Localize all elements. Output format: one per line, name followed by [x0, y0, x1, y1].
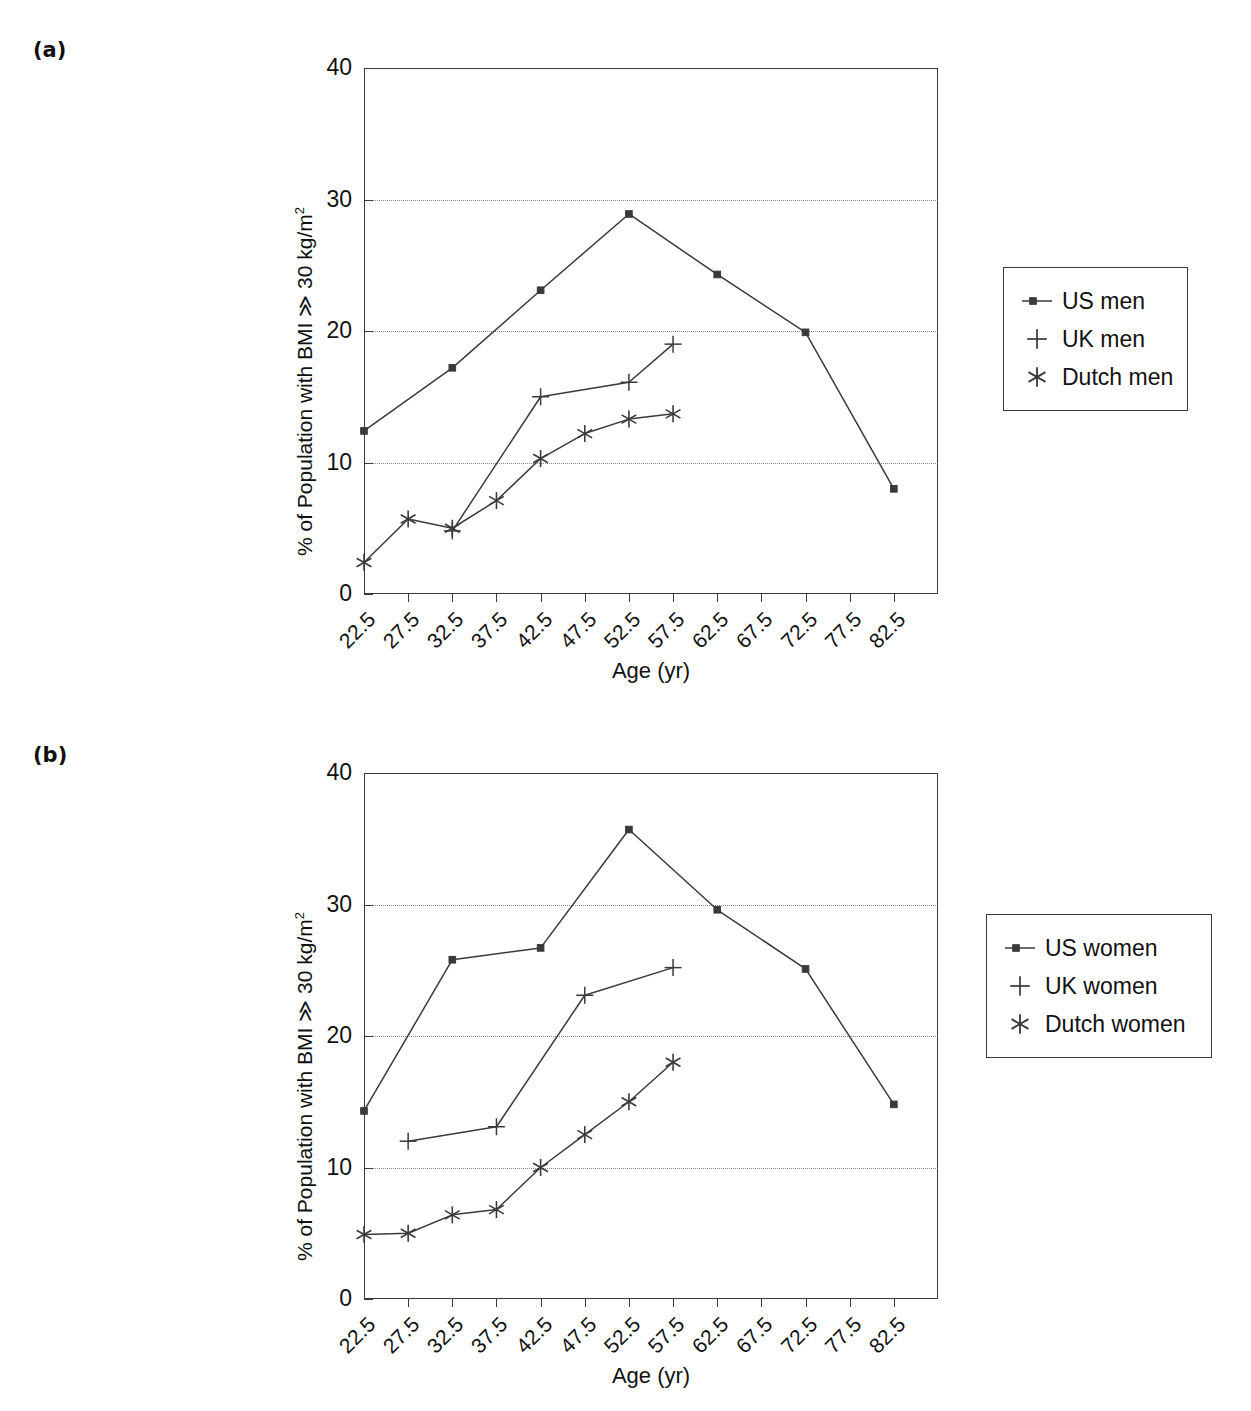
data-point-asterisk — [622, 1093, 637, 1110]
x-tick-label-32.5: 32.5 — [413, 608, 467, 662]
square-marker-glyph — [1018, 289, 1062, 313]
plus-marker-icon — [1001, 974, 1045, 998]
x-tick-label-52.5: 52.5 — [589, 1313, 643, 1367]
legend-item: Dutch men — [1018, 358, 1169, 396]
x-tick-label-52.5: 52.5 — [589, 608, 643, 662]
legend-item: UK men — [1018, 320, 1169, 358]
x-tick-mark-67.5 — [761, 594, 762, 602]
x-tick-mark-62.5 — [717, 594, 718, 602]
y-tick-label-0: 0 — [308, 1287, 352, 1310]
data-point-square — [449, 365, 456, 372]
y-tick-mark-0 — [364, 1299, 373, 1300]
y-tick-mark-20 — [364, 331, 373, 332]
y-tick-mark-0 — [364, 594, 373, 595]
data-point-square — [449, 956, 456, 963]
x-tick-label-47.5: 47.5 — [545, 1313, 599, 1367]
x-tick-label-82.5: 82.5 — [854, 608, 908, 662]
data-point-square — [714, 906, 721, 913]
x-tick-label-57.5: 57.5 — [633, 1313, 687, 1367]
data-point-plus — [400, 1133, 417, 1150]
x-tick-mark-27.5 — [408, 594, 409, 602]
y-tick-mark-30 — [364, 905, 373, 906]
plus-marker-icon — [1018, 327, 1062, 351]
x-tick-mark-37.5 — [496, 594, 497, 602]
data-point-square — [714, 271, 721, 278]
x-tick-label-22.5: 22.5 — [324, 608, 378, 662]
x-tick-label-57.5: 57.5 — [633, 608, 687, 662]
series-line-us-men — [364, 214, 894, 489]
x-tick-label-42.5: 42.5 — [501, 1313, 555, 1367]
y-tick-mark-10 — [364, 463, 373, 464]
x-tick-label-42.5: 42.5 — [501, 608, 555, 662]
square-marker-icon — [1001, 936, 1045, 960]
x-tick-mark-37.5 — [496, 1299, 497, 1307]
legend-a: US men UK men Dutch men — [1003, 267, 1188, 411]
y-axis-title: % of Population with BMI ≫ 30 kg/m2 — [292, 207, 317, 556]
y-tick-mark-40 — [364, 773, 373, 774]
x-tick-label-27.5: 27.5 — [369, 608, 423, 662]
y-tick-label-40: 40 — [308, 56, 352, 79]
data-point-square — [891, 486, 898, 493]
y-tick-mark-40 — [364, 68, 373, 69]
legend-item-label: US men — [1062, 290, 1145, 313]
legend-item: US men — [1018, 282, 1169, 320]
x-tick-label-22.5: 22.5 — [324, 1313, 378, 1367]
x-tick-mark-57.5 — [673, 1299, 674, 1307]
data-point-asterisk — [577, 425, 592, 442]
x-tick-label-82.5: 82.5 — [854, 1313, 908, 1367]
x-tick-label-72.5: 72.5 — [766, 1313, 820, 1367]
x-tick-label-77.5: 77.5 — [810, 608, 864, 662]
x-tick-mark-57.5 — [673, 594, 674, 602]
legend-item-label: UK women — [1045, 975, 1157, 998]
x-tick-mark-27.5 — [408, 1299, 409, 1307]
y-tick-mark-30 — [364, 200, 373, 201]
x-tick-mark-52.5 — [629, 1299, 630, 1307]
panel-a-label: (a) — [33, 38, 66, 62]
data-point-asterisk — [533, 450, 548, 467]
x-tick-label-62.5: 62.5 — [678, 608, 732, 662]
data-point-plus — [576, 987, 593, 1004]
data-point-plus — [488, 1118, 505, 1135]
plus-marker-glyph — [1018, 327, 1062, 351]
plot-area-b — [364, 773, 938, 1299]
panel-b: (b) 010203040% of Population with BMI ≫ … — [0, 705, 1251, 1411]
series-layer-a — [364, 68, 938, 594]
series-layer-b — [364, 773, 938, 1299]
x-tick-label-32.5: 32.5 — [413, 1313, 467, 1367]
legend-item: US women — [1001, 929, 1193, 967]
legend-item-label: Dutch women — [1045, 1013, 1186, 1036]
data-point-square — [626, 211, 633, 218]
legend-b: US women UK women Dutch women — [986, 914, 1212, 1058]
data-point-square — [361, 1108, 368, 1115]
square-marker-icon — [1018, 289, 1062, 313]
y-tick-mark-20 — [364, 1036, 373, 1037]
y-tick-mark-10 — [364, 1168, 373, 1169]
plus-marker-glyph — [1001, 974, 1045, 998]
data-point-square — [802, 329, 809, 336]
data-point-square — [802, 966, 809, 973]
legend-item: UK women — [1001, 967, 1193, 1005]
x-tick-label-67.5: 67.5 — [722, 1313, 776, 1367]
x-tick-mark-52.5 — [629, 594, 630, 602]
x-tick-mark-42.5 — [541, 594, 542, 602]
data-point-square — [891, 1101, 898, 1108]
series-line-uk-men — [452, 344, 673, 531]
x-tick-label-62.5: 62.5 — [678, 1313, 732, 1367]
x-tick-mark-42.5 — [541, 1299, 542, 1307]
series-line-us-women — [364, 830, 894, 1111]
y-tick-label-0: 0 — [308, 582, 352, 605]
legend-item-label: US women — [1045, 937, 1157, 960]
x-tick-mark-77.5 — [850, 594, 851, 602]
y-tick-label-40: 40 — [308, 761, 352, 784]
plot-area-a — [364, 68, 938, 594]
data-point-asterisk — [489, 492, 504, 509]
asterisk-marker-glyph — [1018, 365, 1062, 389]
x-tick-mark-62.5 — [717, 1299, 718, 1307]
asterisk-marker-icon — [1001, 1012, 1045, 1036]
data-point-square — [626, 826, 633, 833]
series-line-dutch-men — [364, 414, 673, 563]
data-point-square — [361, 428, 368, 435]
x-tick-label-77.5: 77.5 — [810, 1313, 864, 1367]
asterisk-marker-icon — [1018, 365, 1062, 389]
y-axis-title: % of Population with BMI ≫ 30 kg/m2 — [292, 912, 317, 1261]
